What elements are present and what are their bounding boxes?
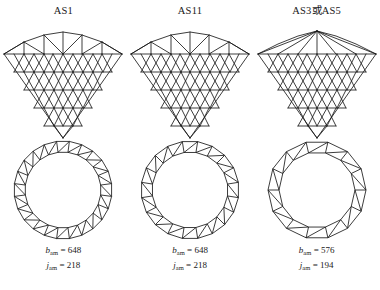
figure-column-as3-as5: AS3或AS5 <box>253 0 380 290</box>
members-subscript: am <box>50 249 58 256</box>
joints-count-as3-as5: jam = 194 <box>299 259 335 274</box>
members-value: 648 <box>194 245 208 255</box>
joints-count-as11: jam = 218 <box>172 259 208 274</box>
caption-as1: bam = 648 jam = 218 <box>45 244 81 274</box>
plan-diagram-as3-as5 <box>254 138 380 242</box>
figure-column-as1: AS1 <box>0 0 127 290</box>
figure-column-as11: AS11 <box>127 0 254 290</box>
elevation-diagram-as11 <box>127 22 253 140</box>
equals-sign: = <box>60 245 65 255</box>
ring-truss-plan-as3-as5 <box>254 138 380 242</box>
members-value: 576 <box>321 245 335 255</box>
equals-sign: = <box>59 260 64 270</box>
lattice-dome-comparison-figure: AS1 <box>0 0 380 290</box>
joints-subscript: am <box>49 264 57 271</box>
elevation-diagram-as3-as5 <box>254 22 380 140</box>
joints-value: 218 <box>193 260 207 270</box>
lattice-dome-elevation-as3-as5 <box>254 22 380 140</box>
plan-diagram-as1 <box>0 138 126 242</box>
column-title-as11: AS11 <box>178 0 202 22</box>
members-subscript: am <box>177 249 185 256</box>
elevation-diagram-as1 <box>0 22 126 140</box>
caption-as11: bam = 648 jam = 218 <box>172 244 208 274</box>
joints-value: 218 <box>67 260 81 270</box>
equals-sign: = <box>186 260 191 270</box>
plan-diagram-as11 <box>127 138 253 242</box>
equals-sign: = <box>187 245 192 255</box>
members-count-as11: bam = 648 <box>172 244 208 259</box>
members-value: 648 <box>68 245 82 255</box>
members-count-as1: bam = 648 <box>45 244 81 259</box>
joints-count-as1: jam = 218 <box>45 259 81 274</box>
ring-truss-plan-as1 <box>0 138 126 242</box>
joints-value: 194 <box>320 260 334 270</box>
equals-sign: = <box>313 260 318 270</box>
column-title-as1: AS1 <box>54 0 73 22</box>
lattice-dome-elevation-as1 <box>0 22 126 140</box>
caption-as3-as5: bam = 576 jam = 194 <box>299 244 335 274</box>
joints-subscript: am <box>176 264 184 271</box>
lattice-dome-elevation-as11 <box>127 22 253 140</box>
column-title-as3-as5: AS3或AS5 <box>292 0 341 22</box>
members-count-as3-as5: bam = 576 <box>299 244 335 259</box>
ring-truss-plan-as11 <box>127 138 253 242</box>
equals-sign: = <box>314 245 319 255</box>
